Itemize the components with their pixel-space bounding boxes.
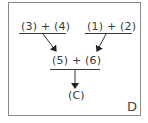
arrows <box>0 0 148 123</box>
corner-label: D <box>127 99 137 114</box>
arrow-top-left-to-middle <box>43 34 56 51</box>
arrow-top-right-to-middle <box>97 34 106 51</box>
